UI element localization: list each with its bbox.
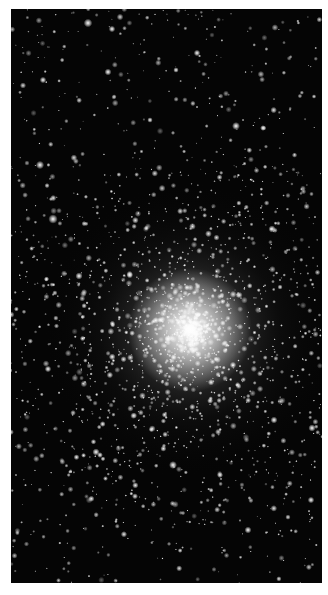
star-cluster-photo xyxy=(11,9,322,583)
star-field-canvas xyxy=(11,9,322,583)
